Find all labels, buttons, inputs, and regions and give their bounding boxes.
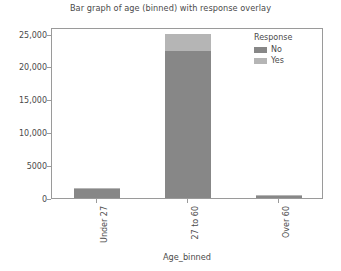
bar-group[interactable]: [165, 34, 211, 198]
bar-group[interactable]: [256, 195, 302, 198]
y-tick-label: 15,000: [1, 96, 47, 105]
y-tick-mark: [47, 100, 51, 101]
x-tick-mark: [278, 199, 279, 203]
legend-swatch: [254, 58, 267, 64]
y-tick-mark: [47, 67, 51, 68]
chart-figure: Bar graph of age (binned) with response …: [0, 0, 341, 271]
y-tick-mark: [47, 35, 51, 36]
bar-segment-yes[interactable]: [165, 34, 211, 51]
legend-swatch: [254, 47, 267, 53]
y-tick-mark: [47, 133, 51, 134]
y-tick-mark: [47, 166, 51, 167]
legend-label: Yes: [271, 56, 284, 65]
legend-item[interactable]: Yes: [254, 56, 316, 65]
y-tick-label: 5000: [1, 162, 47, 171]
x-tick-label: Over 60: [282, 206, 291, 238]
legend-title: Response: [254, 33, 316, 42]
x-tick-label: Under 27: [100, 206, 109, 243]
bar-segment-no[interactable]: [256, 195, 302, 198]
x-tick-label: 27 to 60: [191, 206, 200, 239]
y-tick-label: 0: [1, 195, 47, 204]
bar-group[interactable]: [74, 188, 120, 198]
y-tick-mark: [47, 199, 51, 200]
y-tick-label: 20,000: [1, 63, 47, 72]
chart-title: Bar graph of age (binned) with response …: [0, 3, 341, 13]
legend-entries: NoYes: [254, 45, 316, 65]
y-tick-label: 10,000: [1, 129, 47, 138]
x-tick-mark: [187, 199, 188, 203]
x-axis-title: Age_binned: [51, 252, 323, 262]
bar-segment-no[interactable]: [165, 51, 211, 198]
legend-item[interactable]: No: [254, 45, 316, 54]
bar-segment-yes[interactable]: [74, 188, 120, 189]
y-tick-label: 25,000: [1, 30, 47, 39]
x-tick-mark: [96, 199, 97, 203]
bar-segment-no[interactable]: [74, 189, 120, 198]
chart-legend: Response NoYes: [254, 33, 316, 67]
legend-label: No: [271, 45, 282, 54]
